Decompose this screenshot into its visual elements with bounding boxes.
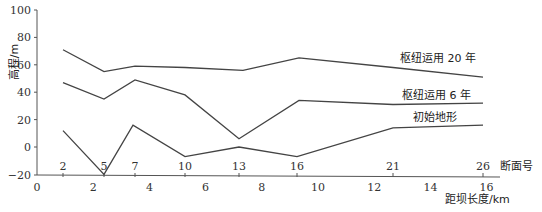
- x-tick-label: 2: [90, 181, 97, 194]
- y-axis-title: 高程/m: [7, 44, 21, 80]
- y-tick-label: 0: [24, 141, 31, 154]
- y-ticks: 100806040200−20: [8, 4, 37, 182]
- y-tick-label: 20: [17, 114, 31, 127]
- x-tick-label: 4: [146, 181, 153, 194]
- series-label-20-years: 枢纽运用 20 年: [400, 51, 476, 65]
- y-tick-label: 100: [10, 4, 31, 17]
- x-tick-label: 8: [258, 181, 265, 194]
- x-tick-label: 12: [367, 181, 381, 194]
- series-label-6-years: 枢纽运用 6 年: [402, 88, 471, 102]
- section-tick-label: 16: [290, 160, 304, 173]
- x-tick-label: 10: [311, 181, 325, 194]
- section-tick-label: 21: [386, 160, 400, 173]
- y-tick-label: 80: [17, 31, 31, 44]
- series-label-initial-terrain: 初始地形: [413, 110, 457, 124]
- section-ticks: 2571013162126: [60, 160, 491, 177]
- section-tick-label: 7: [132, 160, 139, 173]
- x-tick-label: 0: [34, 181, 41, 194]
- x-tick-label: 6: [202, 181, 209, 194]
- y-tick-label: −20: [8, 169, 31, 182]
- x-axis: [37, 175, 500, 177]
- section-tick-label: 10: [178, 160, 192, 173]
- series-line: [63, 125, 483, 174]
- x-ticks: 0246810121416: [34, 181, 494, 194]
- section-number-title: 断面号: [500, 159, 533, 173]
- x-axis-title: 距坝长度/km: [445, 192, 510, 206]
- section-tick-label: 2: [60, 160, 67, 173]
- x-tick-label: 14: [423, 181, 437, 194]
- section-tick-label: 26: [476, 160, 490, 173]
- y-tick-label: 40: [17, 86, 31, 99]
- elevation-profile-chart: 100806040200−20 0246810121416 2571013162…: [0, 0, 542, 212]
- section-tick-label: 13: [232, 160, 246, 173]
